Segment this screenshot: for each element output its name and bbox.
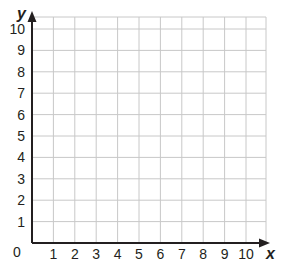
axes (28, 11, 271, 248)
y-tick-label: 6 (17, 107, 25, 123)
y-tick-label: 9 (17, 42, 25, 58)
x-tick-label: 3 (92, 246, 100, 262)
x-tick-label: 1 (50, 246, 58, 262)
x-tick-label: 6 (157, 246, 165, 262)
y-axis-label: y (16, 5, 27, 22)
x-tick-label: 2 (71, 246, 79, 262)
coordinate-grid-chart: 12345678910 12345678910 0 x y (0, 0, 285, 274)
x-tick-label: 10 (238, 246, 254, 262)
x-tick-label: 4 (114, 246, 122, 262)
y-tick-label: 4 (17, 149, 25, 165)
y-tick-label: 8 (17, 64, 25, 80)
origin-label: 0 (13, 244, 21, 260)
y-tick-label: 1 (17, 214, 25, 230)
x-tick-label: 9 (221, 246, 229, 262)
y-tick-label: 7 (17, 85, 25, 101)
y-tick-label: 5 (17, 128, 25, 144)
x-tick-labels: 12345678910 (50, 246, 254, 262)
x-tick-label: 8 (199, 246, 207, 262)
y-tick-label: 2 (17, 192, 25, 208)
y-tick-label: 10 (9, 21, 25, 37)
y-tick-label: 3 (17, 171, 25, 187)
x-axis-label: x (265, 245, 276, 262)
grid-lines (32, 17, 266, 243)
x-tick-label: 7 (178, 246, 186, 262)
y-tick-labels: 12345678910 (9, 21, 25, 230)
x-tick-label: 5 (135, 246, 143, 262)
